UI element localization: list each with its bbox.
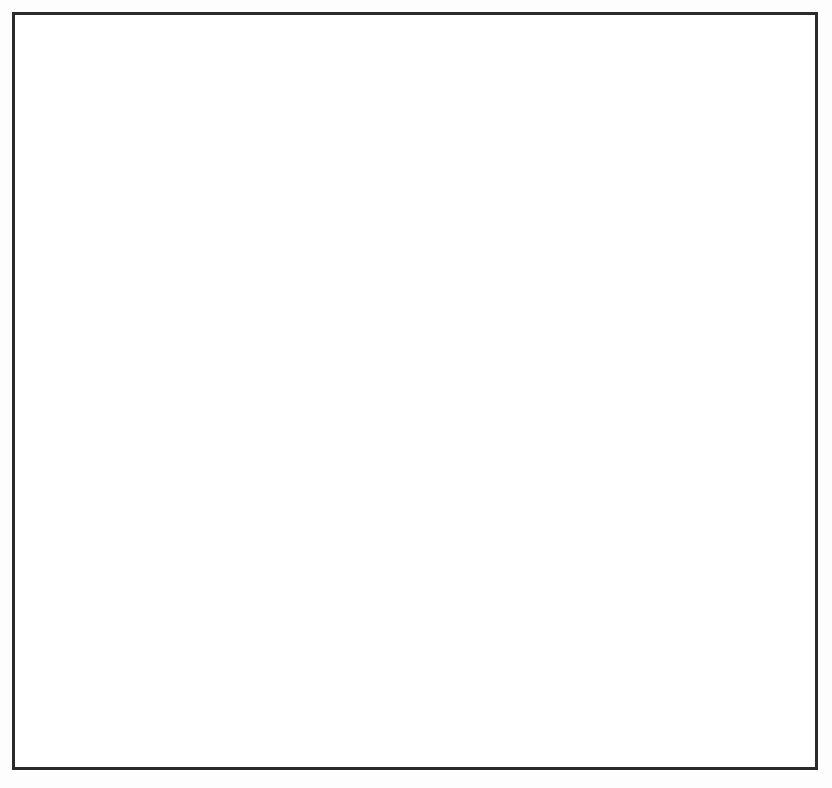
bottom-chart-plot-area	[128, 381, 788, 721]
top-bar-chart-panel	[15, 15, 815, 355]
figure-border	[12, 12, 818, 770]
top-chart-plot-area	[146, 71, 758, 338]
figure-canvas	[0, 0, 832, 788]
bottom-bar-chart-panel	[15, 355, 815, 767]
